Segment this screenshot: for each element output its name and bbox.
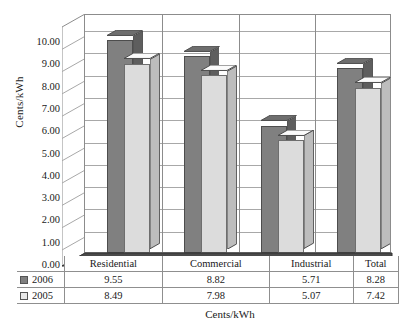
bar-2005-commercial	[201, 75, 227, 253]
bar-side-face	[304, 130, 314, 253]
y-axis-tick-label: 3.00	[14, 193, 60, 204]
table-row: 20069.558.825.718.28	[17, 272, 399, 288]
bar-2005-total	[355, 88, 381, 253]
bar-side-face	[381, 78, 391, 253]
y-axis-tick-label: 5.00	[14, 149, 60, 160]
table-header-residential: Residential	[65, 256, 163, 272]
bar-2005-industrial	[278, 140, 304, 253]
bar-top-face	[107, 22, 144, 40]
table-cell: 8.82	[162, 272, 269, 288]
bar-top-face	[124, 46, 161, 64]
bar-top-face	[337, 50, 374, 68]
table-cell: 5.07	[269, 288, 353, 304]
table-row: 20058.497.985.077.42	[17, 288, 399, 304]
y-axis-tick-label: 9.00	[14, 59, 60, 70]
bar-front-face	[201, 75, 227, 253]
bar-front-face	[124, 64, 150, 253]
x-axis-title-text: Cents/kWh	[205, 308, 255, 320]
bar-top-face	[278, 122, 315, 140]
bars-layer	[62, 14, 402, 266]
y-axis-tick-label: 10.00	[14, 37, 60, 48]
y-axis-tick-label: 7.00	[14, 104, 60, 115]
bar-side-face	[227, 66, 237, 253]
legend-swatch-icon	[20, 276, 28, 284]
y-axis-tick-label: 6.00	[14, 126, 60, 137]
legend-swatch-icon	[20, 292, 28, 300]
table-header-commercial: Commercial	[162, 256, 269, 272]
legend-label: 2006	[32, 274, 53, 285]
bar-top-face	[184, 38, 221, 56]
table-cell: 7.42	[353, 288, 398, 304]
table-cell: 7.98	[162, 288, 269, 304]
bar-2005-residential	[124, 64, 150, 253]
plot-area	[62, 14, 402, 266]
bar-side-face	[150, 54, 160, 253]
y-axis-tick-label: 4.00	[14, 171, 60, 182]
data-table: ResidentialCommercialIndustrialTotal2006…	[17, 256, 399, 304]
legend-label: 2005	[32, 290, 53, 301]
y-axis-tick-label: 2.00	[14, 215, 60, 226]
table-cell: 5.71	[269, 272, 353, 288]
table-header-row: ResidentialCommercialIndustrialTotal	[17, 256, 399, 272]
table-header-industrial: Industrial	[269, 256, 353, 272]
table-cell: 9.55	[65, 272, 163, 288]
y-axis-tick-label: 8.00	[14, 82, 60, 93]
chart-container: Cents/kWh 10.009.008.007.006.005.004.003…	[0, 0, 416, 330]
bar-front-face	[355, 88, 381, 253]
legend-item-2006[interactable]: 2006	[17, 272, 65, 288]
table-cell: 8.49	[65, 288, 163, 304]
bar-top-face	[355, 70, 392, 88]
table-cell: 8.28	[353, 272, 398, 288]
y-axis-tick-label: 1.00	[14, 238, 60, 249]
legend-item-2005[interactable]: 2005	[17, 288, 65, 304]
table-header-corner	[17, 256, 65, 272]
bar-front-face	[278, 140, 304, 253]
x-axis-title: Cents/kWh	[0, 308, 416, 320]
bar-top-face	[201, 57, 238, 75]
table-header-total: Total	[353, 256, 398, 272]
